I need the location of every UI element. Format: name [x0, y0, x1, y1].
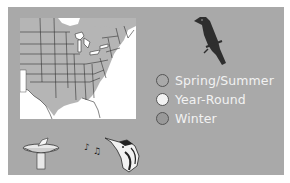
us-map-graphic — [20, 18, 136, 119]
bird-head-icon — [103, 132, 145, 174]
legend-label: Spring/Summer — [175, 73, 274, 88]
year-round-swatch-icon — [156, 93, 169, 106]
winter-swatch-icon — [156, 112, 169, 125]
svg-text:♫: ♫ — [93, 146, 101, 156]
legend-item-spring-summer: Spring/Summer — [156, 71, 274, 90]
legend-label: Year-Round — [175, 92, 246, 107]
range-map — [20, 18, 136, 119]
spring-summer-swatch-icon — [156, 74, 169, 87]
season-legend: Spring/Summer Year-Round Winter — [156, 71, 274, 128]
legend-label: Winter — [175, 111, 217, 126]
perched-bird-silhouette-icon — [186, 11, 236, 71]
legend-item-year-round: Year-Round — [156, 90, 274, 109]
range-map-panel: Spring/Summer Year-Round Winter ♪ ♫ — [8, 7, 284, 175]
svg-text:♪: ♪ — [84, 142, 90, 152]
bird-bath-icon — [20, 134, 62, 172]
legend-item-winter: Winter — [156, 109, 274, 128]
